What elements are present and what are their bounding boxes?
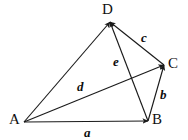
vector-label-c: c [141,31,147,44]
vertex-label-b: B [152,112,162,127]
vector-line-d [24,22,110,122]
vector-label-a: a [84,126,91,139]
vector-label-b: b [160,88,167,101]
vertex-label-d: D [102,2,113,17]
vertex-label-c: C [168,56,178,71]
vector-diagram-figure: A B C D a b c d e [0,0,188,140]
vector-line-a [24,121,148,122]
vector-label-e: e [113,55,119,68]
vector-line-ac [24,65,164,122]
vertex-label-a: A [9,112,20,127]
vector-label-d: d [77,80,84,93]
